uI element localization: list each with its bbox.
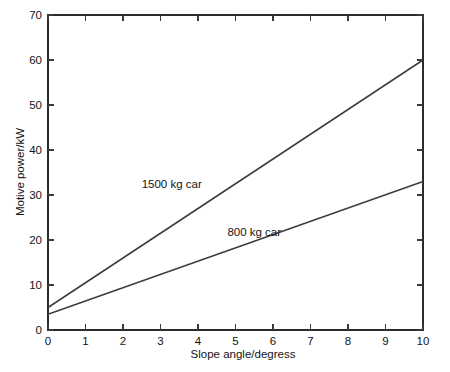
- figure-background: [0, 0, 450, 372]
- x-tick-label-9: 9: [382, 335, 388, 347]
- y-tick-label-7: 70: [29, 9, 42, 21]
- y-tick-label-1: 10: [29, 279, 42, 291]
- x-tick-label-0: 0: [45, 335, 51, 347]
- x-tick-label-4: 4: [195, 335, 202, 347]
- x-tick-label-7: 7: [307, 335, 313, 347]
- y-tick-label-4: 40: [29, 144, 42, 156]
- x-tick-label-1: 1: [82, 335, 88, 347]
- x-tick-label-2: 2: [120, 335, 126, 347]
- x-tick-label-6: 6: [270, 335, 276, 347]
- x-tick-label-8: 8: [345, 335, 351, 347]
- x-tick-label-10: 10: [417, 335, 430, 347]
- y-tick-label-6: 60: [29, 54, 42, 66]
- x-tick-label-5: 5: [232, 335, 238, 347]
- y-tick-label-2: 20: [29, 234, 42, 246]
- x-tick-label-3: 3: [157, 335, 163, 347]
- series-label-2: 800 kg car: [227, 226, 281, 238]
- chart-figure: 010203040506070 012345678910 1500 kg car…: [0, 0, 450, 372]
- y-tick-label-5: 50: [29, 99, 42, 111]
- y-tick-label-0: 0: [36, 324, 42, 336]
- y-tick-label-3: 30: [29, 189, 42, 201]
- x-axis-title: Slope angle/degress: [191, 348, 296, 360]
- y-axis-title: Motive power/kW: [14, 128, 26, 216]
- chart-plot-svg: 010203040506070 012345678910 1500 kg car…: [0, 0, 450, 372]
- series-label-1: 1500 kg car: [142, 178, 202, 190]
